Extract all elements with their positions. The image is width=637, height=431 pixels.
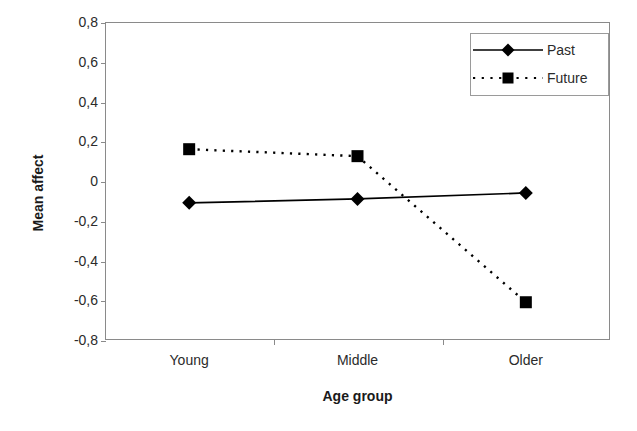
y-axis-tick-mark	[101, 262, 106, 263]
legend-label-past: Past	[545, 42, 575, 58]
x-axis-tick-mark	[443, 339, 444, 345]
x-axis-tick-label: Young	[119, 352, 259, 368]
y-axis-tick-mark	[101, 142, 106, 143]
y-axis-tick-label: 0,6	[38, 54, 98, 70]
legend-key-future	[471, 67, 545, 89]
x-axis-tick-label: Older	[456, 352, 596, 368]
y-axis-tick-mark	[101, 63, 106, 64]
y-axis-tick-label: 0,2	[38, 133, 98, 149]
legend-label-future: Future	[545, 70, 587, 86]
y-axis-tick-label: 0,8	[38, 14, 98, 30]
x-axis-title: Age group	[105, 388, 610, 404]
chart-legend: Past Future	[470, 33, 609, 96]
y-axis-tick-label: -0,4	[38, 253, 98, 269]
line-chart-figure: Mean affect 0,80,60,40,20-0,2-0,4-0,6-0,…	[0, 0, 637, 431]
y-axis-tick-labels: 0,80,60,40,20-0,2-0,4-0,6-0,8	[36, 0, 98, 431]
y-axis-tick-mark	[101, 341, 106, 342]
x-axis-tick-mark	[274, 339, 275, 345]
legend-item-past: Past	[471, 36, 610, 64]
legend-item-future: Future	[471, 64, 610, 92]
y-axis-tick-mark	[101, 182, 106, 183]
y-axis-tick-label: 0,4	[38, 94, 98, 110]
y-axis-tick-mark	[101, 222, 106, 223]
y-axis-tick-label: 0	[38, 173, 98, 189]
y-axis-tick-label: -0,2	[38, 213, 98, 229]
x-axis-tick-label: Middle	[288, 352, 428, 368]
y-axis-tick-label: -0,8	[38, 332, 98, 348]
legend-key-past	[471, 39, 545, 61]
y-axis-tick-label: -0,6	[38, 292, 98, 308]
y-axis-tick-mark	[101, 23, 106, 24]
y-axis-tick-mark	[101, 103, 106, 104]
x-axis-tick-labels: YoungMiddleOlder	[105, 352, 610, 374]
y-axis-tick-mark	[101, 301, 106, 302]
